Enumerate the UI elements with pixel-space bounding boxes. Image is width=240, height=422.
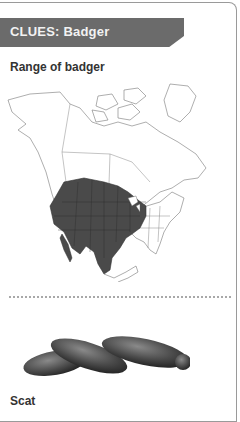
range-map xyxy=(0,82,240,282)
header-title: CLUES: Badger xyxy=(10,24,109,39)
scat-label: Scat xyxy=(10,394,35,408)
section-divider xyxy=(9,296,231,298)
scat-image xyxy=(15,318,190,390)
range-label: Range of badger xyxy=(10,60,105,74)
